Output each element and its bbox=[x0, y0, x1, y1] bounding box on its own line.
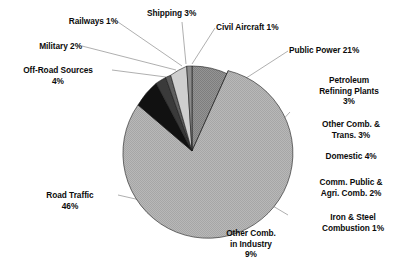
leader-public-power bbox=[240, 51, 288, 82]
label-domestic: Domestic 4% bbox=[300, 151, 402, 162]
label-off-road-sources: Off-Road Sources 4% bbox=[4, 65, 112, 86]
label-military: Military 2% bbox=[10, 41, 82, 52]
leader-railways bbox=[118, 22, 182, 66]
label-other-comb-trans: Other Comb. & Trans. 3% bbox=[300, 119, 402, 140]
label-petroleum-refining-plants: Petroleum Refining Plants 3% bbox=[296, 75, 402, 107]
leader-civil-aircraft bbox=[192, 28, 215, 64]
leader-off-road bbox=[112, 70, 166, 77]
leader-shipping bbox=[182, 22, 186, 64]
pie-slices-group bbox=[123, 66, 293, 238]
label-comm-public-agri-comb: Comm. Public & Agri. Comb. 2% bbox=[294, 177, 408, 198]
label-shipping: Shipping 3% bbox=[147, 8, 227, 19]
label-civil-aircraft: Civil Aircraft 1% bbox=[216, 22, 312, 33]
label-iron-steel-combustion: Iron & Steel Combustion 1% bbox=[300, 212, 406, 233]
label-railways: Railways 1% bbox=[40, 16, 118, 27]
label-public-power: Public Power 21% bbox=[289, 45, 399, 56]
label-road-traffic: Road Traffic 46% bbox=[24, 190, 116, 211]
label-other-comb-in-industry: Other Comb. in Industry 9% bbox=[210, 228, 292, 260]
pie-chart-figure: Railways 1% Shipping 3% Civil Aircraft 1… bbox=[0, 0, 411, 274]
